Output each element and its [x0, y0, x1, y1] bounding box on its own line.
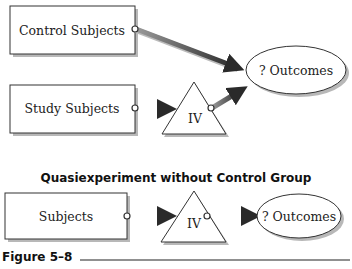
study-subjects-box: Study Subjects: [10, 85, 138, 136]
outcomes-label-2: ? Outcomes: [262, 209, 336, 224]
outcomes-label: ? Outcomes: [259, 63, 333, 78]
outcomes-ellipse: ? Outcomes: [246, 46, 349, 97]
outcomes-ellipse-2: ? Outcomes: [257, 194, 344, 241]
study-subjects-label: Study Subjects: [24, 101, 119, 116]
connector-dot: [124, 213, 130, 219]
connector-dot: [132, 26, 138, 32]
iv-label: IV: [188, 111, 203, 126]
connector-dot: [204, 213, 210, 219]
arrow-iv-to-outcomes-2: [204, 213, 252, 219]
diagram-canvas: Control Subjects Study Subjects IV ? Out…: [0, 0, 352, 269]
arrow-control-to-outcomes: [132, 26, 238, 69]
subjects-box: Subjects: [5, 193, 130, 242]
arrow-iv-to-outcomes: [208, 91, 240, 111]
arrow-study-to-iv: [132, 105, 168, 111]
subjects-label: Subjects: [39, 209, 93, 224]
figure-caption: Figure 5–8: [2, 250, 72, 264]
connector-dot: [208, 105, 214, 111]
iv-label-2: IV: [187, 216, 202, 231]
diagram-title: Quasiexperiment without Control Group: [41, 171, 312, 185]
control-subjects-box: Control Subjects: [10, 6, 138, 57]
control-subjects-label: Control Subjects: [19, 23, 125, 38]
iv-triangle: IV: [162, 82, 229, 137]
arrow-subjects-to-iv: [124, 213, 168, 219]
connector-dot: [132, 105, 138, 111]
